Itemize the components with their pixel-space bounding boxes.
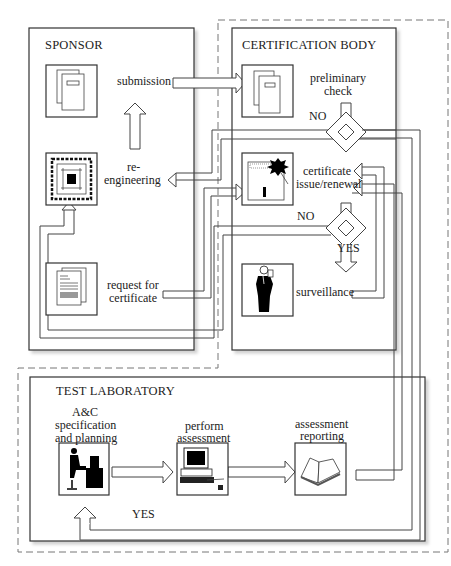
documents-icon xyxy=(242,65,293,117)
certificate-no-label: NO xyxy=(297,210,314,223)
perform-label-2: assessment xyxy=(177,432,230,445)
re-engineering-label-2: engineering xyxy=(104,174,161,187)
test-laboratory-title: TEST LABORATORY xyxy=(56,384,175,399)
documents-icon xyxy=(46,65,97,117)
computer-terminal-icon xyxy=(177,443,228,495)
certificate-yes-label: YES xyxy=(337,242,360,255)
chip-icon xyxy=(46,153,97,205)
certificate-label-2: issue/renewal xyxy=(296,178,361,191)
certification-body-title: CERTIFICATION BODY xyxy=(242,38,376,53)
submission-label: submission xyxy=(117,75,171,88)
certificate-icon xyxy=(242,153,293,205)
ac-label-3: and planning xyxy=(55,432,117,445)
surveillance-label: surveillance xyxy=(296,286,354,299)
reporting-label-2: reporting xyxy=(300,430,344,443)
request-label-2: certificate xyxy=(109,292,157,305)
certification-flow-diagram xyxy=(0,0,451,566)
lab-yes-label: YES xyxy=(132,508,155,521)
worker-at-desk-icon xyxy=(59,443,109,495)
open-book-icon xyxy=(295,443,346,495)
preliminary-no-label: NO xyxy=(309,110,326,123)
sponsor-title: SPONSOR xyxy=(45,38,103,53)
inspector-icon xyxy=(242,264,293,316)
request-document-icon xyxy=(46,263,97,315)
preliminary-check-label-2: check xyxy=(324,85,352,98)
